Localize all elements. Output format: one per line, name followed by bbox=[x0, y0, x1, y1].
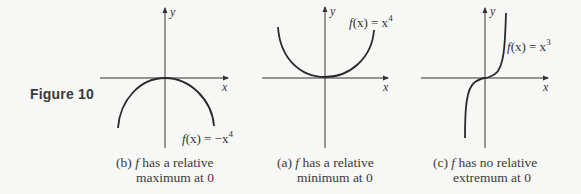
panel-b-x-label: x bbox=[221, 80, 228, 94]
figure-10: Figure 10 x y f(x) = −x4 x y f(x) bbox=[0, 0, 581, 194]
panel-c-function-label: f(x) = x3 bbox=[507, 37, 551, 54]
panel-a-graph: x y f(x) = x4 bbox=[262, 4, 393, 148]
panel-c-caption-line1: has no relative bbox=[455, 155, 537, 170]
panel-c-y-label: y bbox=[489, 4, 496, 18]
panel-b-caption: (b) f has a relative maximum at 0 bbox=[116, 155, 214, 185]
panel-a-caption-line2: minimum at 0 bbox=[277, 170, 374, 185]
panel-c-caption: (c) f has no relative extremum at 0 bbox=[433, 155, 537, 185]
panel-a-y-label: y bbox=[329, 4, 336, 18]
panel-c-caption-line2: extremum at 0 bbox=[433, 170, 537, 185]
panel-a-caption-tag: (a) bbox=[277, 155, 292, 170]
panel-b-function-label: f(x) = −x4 bbox=[182, 129, 233, 146]
panel-b-caption-line2: maximum at 0 bbox=[116, 170, 214, 185]
panel-b-caption-line1: has a relative bbox=[139, 155, 214, 170]
panel-a-x-label: x bbox=[382, 80, 389, 94]
panel-a-caption: (a) f has a relative minimum at 0 bbox=[277, 155, 374, 185]
panel-c-caption-tag: (c) bbox=[433, 155, 448, 170]
panel-a-function-label: f(x) = x4 bbox=[349, 13, 393, 30]
panel-b-caption-tag: (b) bbox=[116, 155, 132, 170]
panel-a-caption-line1: has a relative bbox=[299, 155, 374, 170]
panel-b-y-label: y bbox=[169, 5, 176, 19]
panel-b-curve bbox=[118, 78, 214, 128]
panel-c-graph: x y f(x) = x3 bbox=[421, 4, 551, 148]
panel-b-graph: x y f(x) = −x4 bbox=[100, 5, 233, 148]
panel-c-x-label: x bbox=[542, 80, 549, 94]
panel-a-curve bbox=[278, 27, 374, 77]
